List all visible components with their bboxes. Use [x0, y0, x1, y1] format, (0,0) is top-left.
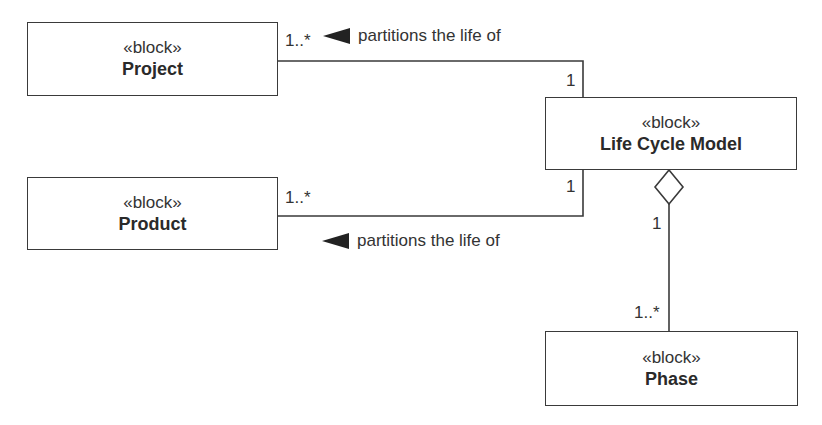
multiplicity-product-end: 1..* — [285, 188, 311, 208]
block-product[interactable]: «block» Product — [27, 177, 278, 250]
direction-arrow-icon — [322, 233, 349, 249]
direction-arrow-icon — [323, 28, 350, 44]
block-name: Product — [118, 213, 186, 236]
stereotype-label: «block» — [123, 37, 182, 58]
multiplicity-aggregate-end: 1 — [652, 214, 661, 234]
association-name: partitions the life of — [358, 26, 501, 46]
association-product-lifecycle — [277, 169, 583, 216]
association-label-product: partitions the life of — [322, 231, 500, 251]
association-name: partitions the life of — [357, 231, 500, 251]
stereotype-label: «block» — [642, 347, 701, 368]
aggregation-diamond-icon — [655, 170, 683, 204]
multiplicity-project-end: 1..* — [285, 31, 311, 51]
association-project-lifecycle — [277, 61, 583, 97]
stereotype-label: «block» — [642, 112, 701, 133]
multiplicity-lifecycle-end: 1 — [566, 71, 575, 91]
block-phase[interactable]: «block» Phase — [545, 331, 798, 406]
block-life-cycle-model[interactable]: «block» Life Cycle Model — [545, 97, 797, 170]
multiplicity-part-end: 1..* — [634, 303, 660, 323]
association-label-project: partitions the life of — [323, 26, 501, 46]
multiplicity-lifecycle-end: 1 — [566, 177, 575, 197]
block-name: Life Cycle Model — [600, 133, 742, 156]
block-project[interactable]: «block» Project — [27, 22, 278, 96]
block-name: Phase — [645, 368, 698, 391]
block-name: Project — [122, 58, 183, 81]
stereotype-label: «block» — [123, 192, 182, 213]
